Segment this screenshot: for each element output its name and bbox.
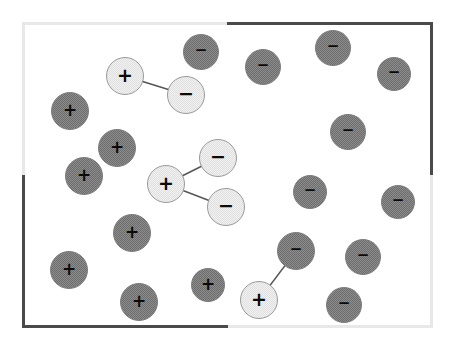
minus-sign-icon: − <box>388 65 401 80</box>
negative-ion: − <box>330 114 366 150</box>
minus-sign-icon: − <box>218 196 234 215</box>
negative-ion: − <box>381 185 415 219</box>
plus-sign-icon: + <box>132 293 146 310</box>
positive-ion: + <box>65 157 103 195</box>
minus-sign-icon: − <box>357 248 370 263</box>
positive-ion: + <box>51 92 89 130</box>
positive-ion: + <box>50 251 88 289</box>
positive-ion: + <box>240 281 278 319</box>
positive-ion: + <box>113 214 151 252</box>
minus-sign-icon: − <box>338 296 351 311</box>
positive-ion: + <box>106 57 144 95</box>
ion-diagram-figure: +++++++−−−−−−−−−−+−+−−+ <box>0 0 455 349</box>
minus-sign-icon: − <box>327 39 340 54</box>
negative-ion: − <box>245 49 281 85</box>
plus-sign-icon: + <box>251 290 267 309</box>
negative-ion: − <box>345 239 381 275</box>
negative-ion: − <box>277 232 315 270</box>
positive-ion: + <box>147 165 185 203</box>
plus-sign-icon: + <box>158 174 174 193</box>
minus-sign-icon: − <box>257 58 270 73</box>
negative-ion: − <box>293 175 327 209</box>
plus-sign-icon: + <box>110 139 124 156</box>
minus-sign-icon: − <box>342 123 355 138</box>
plus-sign-icon: + <box>62 261 76 278</box>
positive-ion: + <box>98 129 136 167</box>
minus-sign-icon: − <box>304 183 317 198</box>
negative-ion: − <box>199 139 237 177</box>
negative-ion: − <box>377 57 411 91</box>
positive-ion: + <box>191 268 225 302</box>
minus-sign-icon: − <box>392 193 405 208</box>
negative-ion: − <box>326 287 362 323</box>
minus-sign-icon: − <box>178 84 194 103</box>
plus-sign-icon: + <box>63 102 77 119</box>
negative-ion: − <box>167 76 205 114</box>
negative-ion: − <box>207 188 245 226</box>
minus-sign-icon: − <box>195 43 208 58</box>
negative-ion: − <box>183 34 219 70</box>
plus-sign-icon: + <box>125 224 139 241</box>
plus-sign-icon: + <box>77 167 91 184</box>
minus-sign-icon: − <box>210 147 226 166</box>
positive-ion: + <box>120 283 158 321</box>
minus-sign-icon: − <box>290 242 303 257</box>
negative-ion: − <box>315 30 351 66</box>
plus-sign-icon: + <box>201 276 215 293</box>
plus-sign-icon: + <box>117 66 133 85</box>
